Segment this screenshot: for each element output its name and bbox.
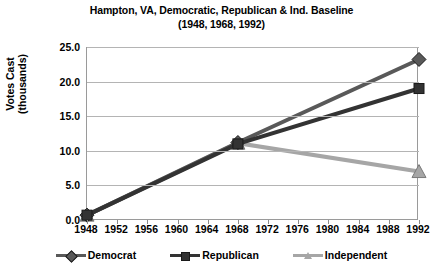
- y-axis-tick-label: 15.0: [34, 111, 80, 122]
- x-axis-tick-label: 1976: [280, 223, 314, 235]
- legend-label: Republican: [202, 249, 259, 261]
- data-point-marker: [414, 84, 424, 94]
- x-axis-tick-label: 1984: [341, 223, 375, 235]
- legend-swatch-diamond-icon: [56, 250, 86, 260]
- y-axis-title-line2: (thousands): [16, 54, 28, 114]
- x-axis-tick-labels: 1948195219561960196419681972197619801984…: [0, 223, 443, 237]
- legend-item-democrat[interactable]: Democrat: [56, 249, 136, 261]
- x-axis-tick-label: 1956: [129, 223, 163, 235]
- gridline: [87, 185, 419, 186]
- gridline: [87, 116, 419, 117]
- legend-swatch-square-icon: [170, 250, 200, 260]
- legend-item-independent[interactable]: Independent: [293, 249, 387, 261]
- legend-label: Independent: [325, 249, 387, 261]
- y-axis-tick-label: 25.0: [34, 42, 80, 53]
- chart-legend: DemocratRepublicanIndependent: [0, 246, 443, 264]
- legend-item-republican[interactable]: Republican: [170, 249, 259, 261]
- y-axis-title: Votes Cast (thousands): [4, 24, 28, 144]
- series-line-republican: [87, 89, 419, 216]
- chart-container: Hampton, VA, Democratic, Republican & In…: [0, 0, 443, 267]
- x-axis-tick-label: 1972: [250, 223, 284, 235]
- gridline: [87, 47, 419, 48]
- x-axis-tick-label: 1980: [310, 223, 344, 235]
- y-axis-tick-label: 5.0: [34, 180, 80, 191]
- legend-swatch-triangle-icon: [293, 250, 323, 260]
- gridline: [87, 82, 419, 83]
- legend-label: Democrat: [88, 249, 136, 261]
- series-line-independent: [87, 143, 419, 215]
- gridline: [87, 151, 419, 152]
- x-axis-tick-label: 1968: [220, 223, 254, 235]
- data-point-marker: [82, 210, 92, 220]
- data-point-marker: [233, 139, 243, 149]
- x-axis-tick-label: 1964: [190, 223, 224, 235]
- plot-area: [86, 47, 418, 220]
- y-axis-title-line1: Votes Cast: [4, 57, 16, 111]
- y-axis-tick-label: 20.0: [34, 77, 80, 88]
- x-axis-tick-label: 1960: [160, 223, 194, 235]
- y-axis-tick-label: 10.0: [34, 146, 80, 157]
- x-axis-tick-label: 1992: [401, 223, 435, 235]
- x-axis-tick-label: 1948: [69, 223, 103, 235]
- series-layer: [87, 47, 419, 220]
- x-axis-tick-label: 1952: [99, 223, 133, 235]
- x-axis-tick-label: 1988: [371, 223, 405, 235]
